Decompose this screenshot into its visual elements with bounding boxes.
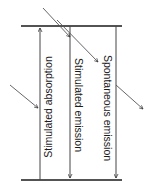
absorption-photon-arrow	[10, 85, 38, 108]
spontaneous-photon-arrow	[116, 85, 143, 109]
stimulated-incoming-photon-arrow	[43, 8, 70, 37]
stimulated-emission-label: Stimulated emission	[74, 58, 85, 152]
spontaneous-emission-label: Spontaneous emission	[103, 55, 114, 161]
stimulated-absorption-label: Stimulated absorption	[43, 56, 54, 158]
